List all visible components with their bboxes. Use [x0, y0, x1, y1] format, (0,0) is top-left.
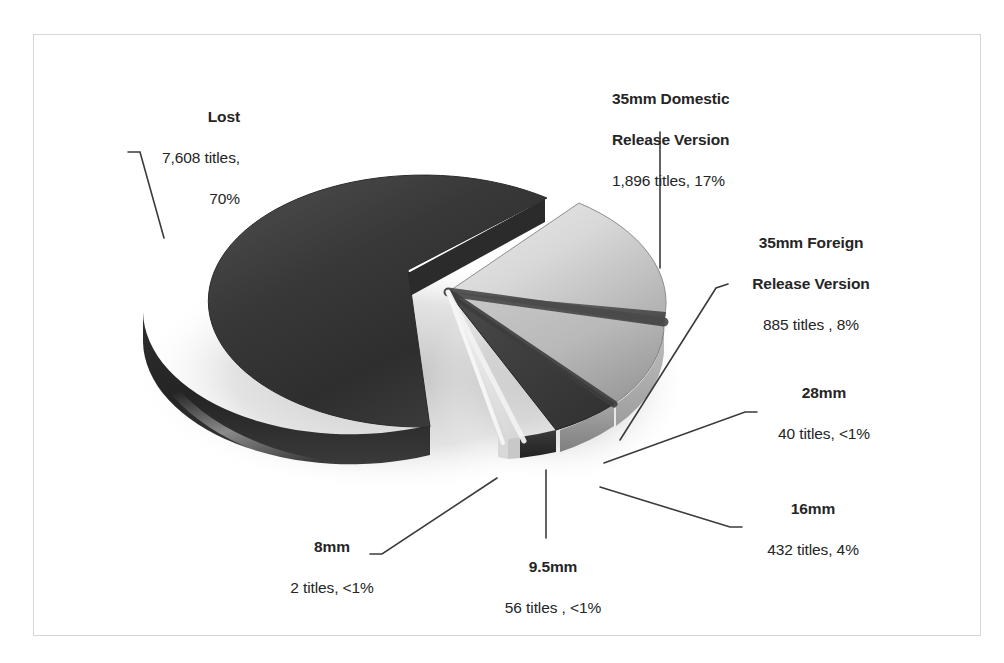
- callout-28mm: 28mm 40 titles, <1%: [700, 362, 948, 465]
- callout-lost: Lost 7,608 titles, 70%: [40, 86, 240, 230]
- callout-9-5mm: 9.5mm 56 titles , <1%: [440, 536, 666, 639]
- callout-lost-percent: 70%: [40, 189, 240, 209]
- callout-28mm-title: 28mm: [700, 383, 948, 403]
- callout-35mm-domestic: 35mm Domestic Release Version 1,896 titl…: [612, 68, 862, 212]
- callout-16mm: 16mm 432 titles, 4%: [688, 478, 938, 581]
- callout-lost-title: Lost: [40, 107, 240, 127]
- callout-35mm-domestic-value: 1,896 titles, 17%: [612, 171, 862, 191]
- callout-35mm-foreign: 35mm Foreign Release Version 885 titles …: [684, 212, 938, 356]
- callout-9-5mm-value: 56 titles , <1%: [440, 598, 666, 618]
- chart-figure: Lost 7,608 titles, 70% 35mm Domestic Rel…: [0, 0, 1004, 663]
- callout-8mm-value: 2 titles, <1%: [232, 578, 432, 598]
- callout-35mm-domestic-title-line1: 35mm Domestic: [612, 89, 862, 109]
- callout-35mm-foreign-value: 885 titles , 8%: [684, 315, 938, 335]
- callout-35mm-foreign-title-line2: Release Version: [684, 274, 938, 294]
- callout-35mm-foreign-title-line1: 35mm Foreign: [684, 233, 938, 253]
- callout-16mm-title: 16mm: [688, 499, 938, 519]
- callout-9-5mm-title: 9.5mm: [440, 557, 666, 577]
- callout-8mm: 8mm 2 titles, <1%: [232, 516, 432, 619]
- callout-28mm-value: 40 titles, <1%: [700, 424, 948, 444]
- callout-lost-value: 7,608 titles,: [40, 148, 240, 168]
- callout-35mm-domestic-title-line2: Release Version: [612, 130, 862, 150]
- callout-16mm-value: 432 titles, 4%: [688, 540, 938, 560]
- pie-chart-stage: Lost 7,608 titles, 70% 35mm Domestic Rel…: [0, 0, 1004, 663]
- callout-8mm-title: 8mm: [232, 537, 432, 557]
